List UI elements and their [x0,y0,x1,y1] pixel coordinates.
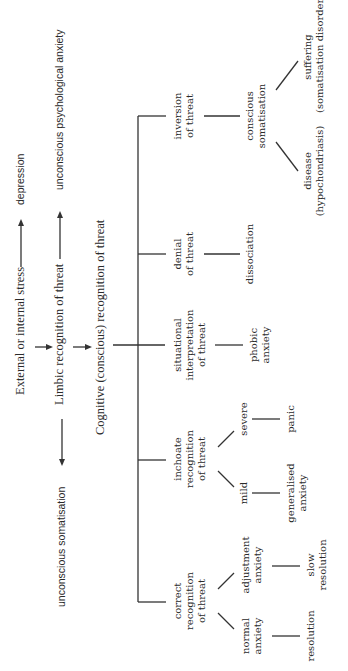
resolution-node: resolution [305,607,317,665]
disease-hypochondriasis-node: disease(hypochondriasis) [302,121,326,221]
denial-node: denialof threat [172,222,196,286]
phobic-anxiety-node: phobicanxiety [248,319,272,371]
mild-node: mild [238,475,250,511]
generalised-anxiety-node: generalisedanxiety [285,461,309,525]
depression-label: depression [14,154,26,205]
stress-label: External or internal stress [13,267,27,395]
correct-recognition-node: correctrecognitionof threat [172,571,208,631]
threat-recognition-diagram: External or internal stress depression L… [0,0,348,671]
severe-node: severe [238,399,250,439]
panic-node: panic [285,399,297,439]
unconscious-psychological-anxiety-label: unconscious psychological anxiety [53,29,65,190]
limbic-label: Limbic recognition of threat [52,264,66,405]
cognitive-label: Cognitive (conscious) recognition of thr… [93,220,107,435]
inchoate-recognition-node: inchoaterecognitionof threat [172,429,208,489]
situational-interpretation-node: situationalinterpretationof threat [172,309,208,381]
unconscious-somatisation-label: unconscious somatisation [55,487,67,607]
adjustment-anxiety-node: adjustmentanxiety [240,535,264,595]
normal-anxiety-node: normalanxiety [240,613,264,659]
inversion-node: inversionof threat [172,81,196,151]
dissociation-node: dissociation [244,217,256,291]
slow-resolution-node: slowresolution [305,535,329,595]
suffering-somatisation-disorder-node: suffering(somatisation disorder) [302,1,326,113]
conscious-somatisation-node: conscioussomatisation [244,76,268,156]
